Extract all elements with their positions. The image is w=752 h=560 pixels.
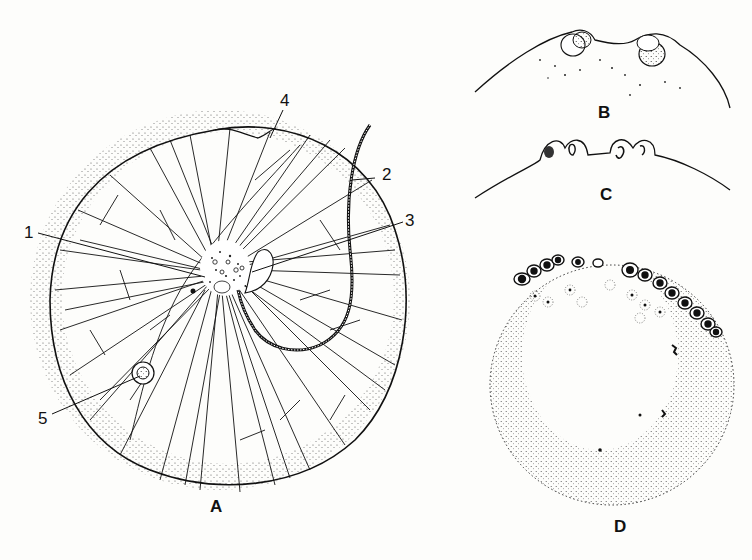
callout-1: 1 (24, 224, 33, 241)
callout-5: 5 (38, 410, 47, 427)
panel-label-a: A (210, 498, 222, 515)
panel-label-b: B (598, 104, 610, 121)
callout-2: 2 (382, 166, 391, 183)
callout-4: 4 (280, 92, 289, 109)
panel-d-drawing (480, 255, 750, 520)
callout-3: 3 (405, 212, 414, 229)
figure-canvas (0, 0, 752, 560)
panel-label-c: C (600, 186, 612, 203)
panel-label-d: D (614, 518, 626, 535)
panel-b-drawing (475, 30, 730, 108)
panel-a-cell (20, 100, 420, 500)
